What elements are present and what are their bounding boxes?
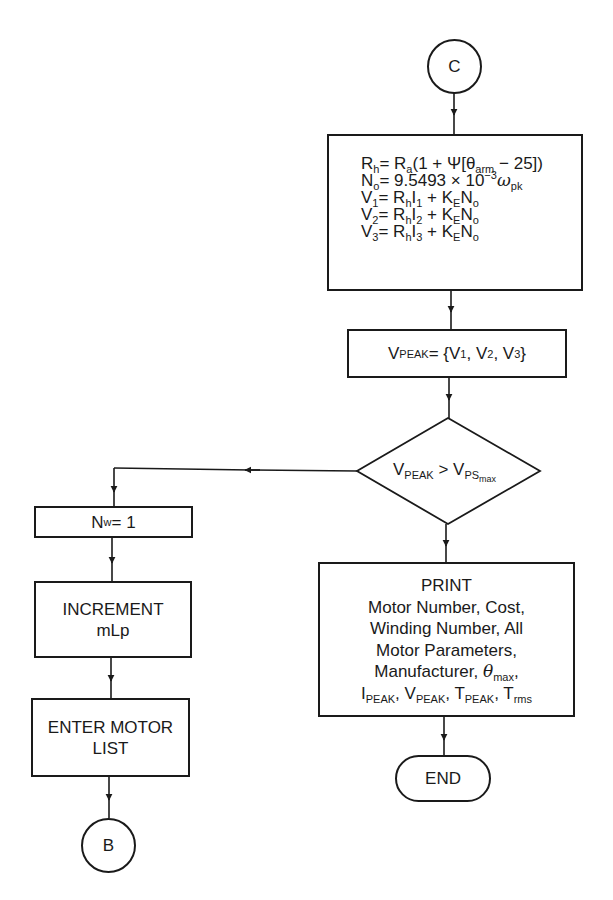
connector-c-label: C bbox=[448, 57, 460, 77]
end-terminator: END bbox=[395, 755, 491, 802]
connector-c: C bbox=[427, 39, 482, 94]
print-title: PRINT bbox=[421, 575, 472, 597]
formula-no: No= 9.5493 × 10−3ωpk bbox=[361, 172, 543, 189]
compute-formulas: Rh= Ra(1 + Ψ[θarm − 25]) No= 9.5493 × 10… bbox=[361, 155, 543, 240]
vpeak-box: VPEAK = {V1, V2, V3} bbox=[347, 329, 567, 378]
nw-box: Nw = 1 bbox=[34, 506, 193, 538]
formula-v3: V3= RhI3 + KENo bbox=[361, 223, 543, 240]
enter-motor-list-box: ENTER MOTOR LIST bbox=[31, 698, 190, 777]
formula-rh: Rh= Ra(1 + Ψ[θarm − 25]) bbox=[361, 155, 543, 172]
connector-b: B bbox=[81, 818, 136, 873]
decision-label: VPEAK > VPSmax bbox=[393, 460, 496, 480]
print-box: PRINT Motor Number, Cost, Winding Number… bbox=[318, 562, 575, 717]
formula-v2: V2= RhI2 + KENo bbox=[361, 206, 543, 223]
connector-b-label: B bbox=[103, 836, 114, 856]
increment-box: INCREMENT mLp bbox=[34, 581, 192, 658]
